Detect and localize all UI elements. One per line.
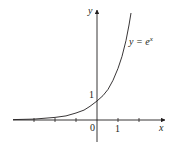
curve-label-base: y = e (128, 36, 150, 47)
curve-label: y = ex (128, 35, 154, 47)
x-axis-label: x (158, 122, 164, 133)
origin-label: 0 (90, 122, 95, 133)
y-tick-label-1: 1 (89, 89, 94, 100)
chart-canvas: y x 0 1 1 y = ex (0, 0, 175, 146)
exponential-curve (13, 13, 131, 120)
y-axis-label: y (87, 5, 93, 16)
x-tick-label-1: 1 (115, 123, 120, 134)
curve-label-exponent: x (149, 35, 154, 43)
